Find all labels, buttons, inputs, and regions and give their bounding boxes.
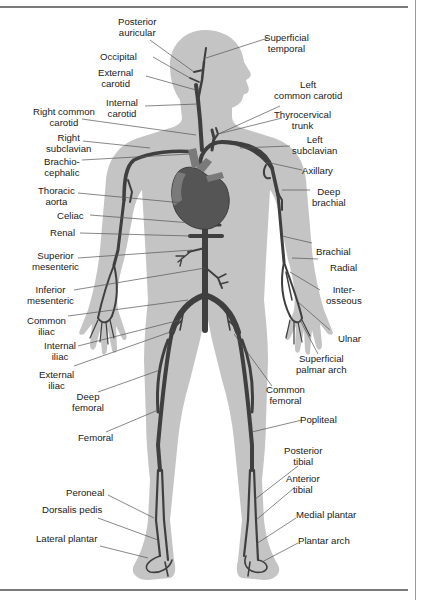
label-anterior-tibial: Anterior tibial bbox=[286, 474, 320, 495]
diagram-frame: Posterior auricular Occipital External c… bbox=[0, 0, 422, 600]
label-inferior-mesenteric: Inferior mesenteric bbox=[27, 285, 74, 306]
label-superior-mesenteric: Superior mesenteric bbox=[32, 251, 79, 272]
label-deep-brachial: Deep brachial bbox=[312, 187, 346, 208]
label-posterior-auricular: Posterior auricular bbox=[118, 17, 156, 38]
label-posterior-tibial: Posterior tibial bbox=[284, 446, 322, 467]
label-thoracic-aorta: Thoracic aorta bbox=[38, 186, 75, 207]
label-ulnar: Ulnar bbox=[338, 334, 361, 345]
label-deep-femoral: Deep femoral bbox=[72, 392, 104, 413]
label-plantar-arch: Plantar arch bbox=[298, 536, 350, 547]
label-lateral-plantar: Lateral plantar bbox=[36, 534, 97, 545]
label-brachiocephalic: Brachio- cephalic bbox=[44, 157, 80, 178]
label-celiac: Celiac bbox=[57, 211, 84, 222]
label-thyrocervical-trunk: Thyrocervical trunk bbox=[274, 110, 331, 131]
leader-peroneal bbox=[108, 495, 154, 518]
label-left-subclavian: Left subclavian bbox=[292, 135, 337, 156]
label-right-subclavian: Right subclavian bbox=[46, 133, 91, 154]
label-dorsalis-pedis: Dorsalis pedis bbox=[42, 505, 102, 516]
label-interosseous: Inter- osseous bbox=[326, 285, 362, 306]
label-external-iliac: External iliac bbox=[39, 370, 74, 391]
label-peroneal: Peroneal bbox=[66, 488, 104, 499]
label-internal-carotid: Internal carotid bbox=[106, 98, 138, 119]
label-common-iliac: Common iliac bbox=[27, 316, 66, 337]
label-popliteal: Popliteal bbox=[300, 415, 337, 426]
label-femoral: Femoral bbox=[78, 433, 113, 444]
label-internal-iliac: Internal iliac bbox=[44, 341, 76, 362]
label-medial-plantar: Medial plantar bbox=[296, 510, 356, 521]
label-superficial-temporal: Superficial temporal bbox=[264, 33, 309, 54]
label-radial: Radial bbox=[330, 263, 357, 274]
label-axillary: Axillary bbox=[302, 166, 333, 177]
label-brachial: Brachial bbox=[316, 247, 351, 258]
label-external-carotid: External carotid bbox=[98, 68, 133, 89]
label-left-common-carotid: Left common carotid bbox=[274, 80, 342, 101]
label-superficial-palmar-arch: Superficial palmar arch bbox=[296, 354, 347, 375]
label-common-femoral: Common femoral bbox=[266, 385, 305, 406]
label-right-common-carotid: Right common carotid bbox=[33, 107, 95, 128]
label-renal: Renal bbox=[50, 228, 75, 239]
label-occipital: Occipital bbox=[100, 52, 137, 63]
